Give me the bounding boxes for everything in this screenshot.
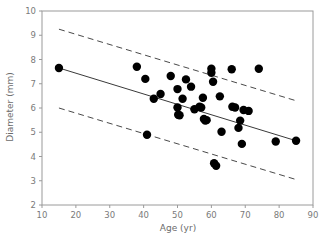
chart-background: [0, 0, 331, 235]
scatter-chart-figure: 102030405060708090 2345678910 Age (yr) D…: [0, 0, 331, 235]
data-point: [167, 72, 175, 80]
data-point: [292, 137, 300, 145]
data-point: [178, 95, 186, 103]
data-point: [231, 103, 239, 111]
data-point: [141, 75, 149, 83]
y-tick-label: 8: [31, 55, 36, 65]
x-tick-label: 10: [37, 210, 48, 220]
data-point: [173, 103, 181, 111]
y-axis-title: Diameter (mm): [5, 72, 15, 141]
y-tick-label: 5: [31, 127, 36, 137]
y-tick-label: 10: [25, 6, 36, 16]
y-tick-label: 2: [31, 200, 36, 210]
data-point: [236, 116, 244, 124]
data-point: [133, 63, 141, 71]
y-tick-label: 7: [31, 79, 36, 89]
data-point: [234, 124, 242, 132]
x-tick-label: 90: [308, 210, 319, 220]
data-point: [175, 111, 183, 119]
data-point: [199, 94, 207, 102]
y-tick-label: 6: [31, 103, 36, 113]
data-point: [143, 130, 151, 138]
data-point: [202, 116, 210, 124]
x-tick-label: 70: [240, 210, 251, 220]
data-point: [217, 128, 225, 136]
x-tick-label: 30: [104, 210, 115, 220]
data-point: [187, 82, 195, 90]
data-point: [228, 65, 236, 73]
data-point: [207, 69, 215, 77]
x-axis-title: Age (yr): [160, 223, 196, 233]
data-point: [255, 65, 263, 73]
x-tick-label: 80: [274, 210, 285, 220]
data-point: [244, 107, 252, 115]
x-axis-tick-labels: 102030405060708090: [37, 210, 319, 220]
x-tick-label: 40: [138, 210, 149, 220]
data-point: [209, 78, 217, 86]
data-point: [182, 75, 190, 83]
x-tick-label: 50: [172, 210, 183, 220]
data-point: [238, 140, 246, 148]
y-tick-label: 9: [31, 30, 36, 40]
x-tick-label: 20: [70, 210, 81, 220]
y-tick-label: 4: [31, 152, 36, 162]
data-point: [156, 90, 164, 98]
data-point: [173, 85, 181, 93]
data-point: [216, 92, 224, 100]
data-point: [197, 103, 205, 111]
data-point: [212, 162, 220, 170]
plot-canvas: 102030405060708090 2345678910 Age (yr) D…: [0, 0, 331, 235]
data-point: [272, 137, 280, 145]
x-tick-label: 60: [206, 210, 217, 220]
data-point: [55, 64, 63, 72]
data-point: [150, 95, 158, 103]
y-tick-label: 3: [31, 176, 36, 186]
